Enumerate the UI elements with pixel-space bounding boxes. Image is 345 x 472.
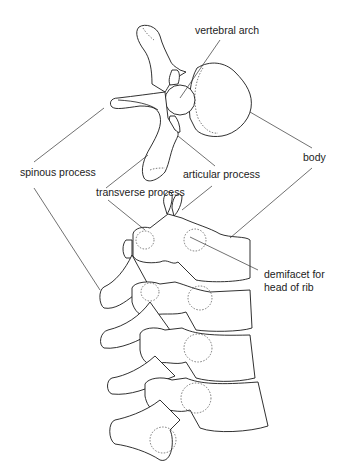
label-demifacet-line1: demifacet for [264,268,325,280]
label-articular-process: articular process [183,168,260,180]
leader-body-top [250,112,312,148]
label-body: body [303,151,326,163]
label-vertebral-arch: vertebral arch [195,24,259,36]
superior-view-vertebra [110,25,251,181]
leader-spinous-bottom [34,188,100,290]
leader-articular-top [178,136,215,166]
leader-articular-bottom [182,186,212,210]
label-demifacet-line2: head of rib [264,281,314,293]
leader-transverse-bottom [108,200,145,230]
lateral-view-column [100,192,268,461]
leader-spinous-top [34,108,104,162]
vertebra-diagram: vertebral arch spinous process transvers… [0,0,345,472]
diagram-drawing [0,0,345,472]
label-spinous-process: spinous process [20,166,96,178]
leader-transverse-top [106,155,148,188]
label-transverse-process: transverse process [96,186,185,198]
